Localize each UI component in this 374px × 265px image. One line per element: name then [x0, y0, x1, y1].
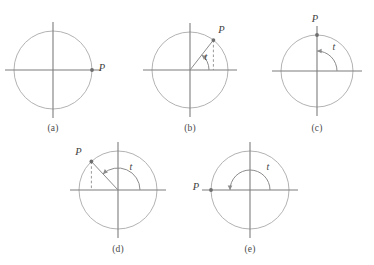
point-marker-a [90, 68, 94, 72]
panel-caption-b: (b) [170, 124, 210, 134]
panel-caption-c: (c) [297, 124, 337, 134]
panel-b: tP [143, 23, 237, 117]
figure-footnote [6, 257, 366, 265]
point-marker-e [209, 188, 213, 192]
point-label-a: P [98, 62, 106, 73]
angle-label-b: t [205, 51, 208, 62]
point-label-e: P [192, 181, 200, 192]
angle-arc-c [317, 51, 337, 71]
panel-caption-e: (e) [230, 245, 270, 255]
panel-c: tP [272, 13, 362, 116]
point-label-b: P [217, 24, 225, 35]
point-label-d: P [74, 146, 82, 157]
panel-d: tP [70, 142, 166, 238]
arc-arrowhead-d [103, 169, 108, 174]
angle-arc-d [103, 168, 140, 190]
angle-label-e: t [267, 161, 270, 172]
radius-line-d [91, 161, 118, 190]
panel-caption-d: (d) [98, 245, 138, 255]
point-marker-d [90, 160, 94, 164]
angle-label-c: t [333, 41, 336, 52]
arc-arrowhead-c [317, 49, 322, 54]
panel-a: P [5, 22, 106, 118]
point-marker-b [211, 38, 215, 42]
angle-label-d: t [130, 161, 133, 172]
panel-caption-a: (a) [33, 124, 73, 134]
point-marker-c [315, 33, 319, 37]
figure-container: PtPtPtPtP (a)(b)(c)(d)(e) [0, 0, 374, 265]
point-label-c: P [311, 13, 319, 24]
panel-e: tP [192, 142, 298, 238]
arc-arrowhead-e [228, 185, 233, 190]
